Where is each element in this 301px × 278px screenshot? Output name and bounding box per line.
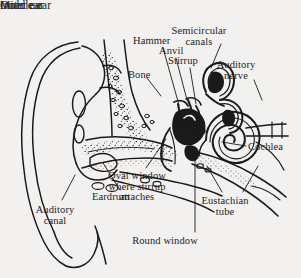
leader-auditory-canal	[62, 175, 75, 200]
leader-auditory-nerve	[254, 80, 262, 100]
label-auditory-canal: Auditorycanal	[36, 205, 75, 226]
ear-anatomy-diagram: Outer ear Middle ear Inner ear Semicircu…	[0, 0, 301, 278]
label-round-window: Round window	[132, 236, 198, 247]
label-eardrum: Eardrum	[92, 192, 129, 203]
label-inner-ear: Inner ear	[0, 0, 42, 12]
label-auditory-nerve: Auditorynerve	[217, 60, 256, 81]
leader-cochlea	[222, 142, 246, 146]
label-stirrup: Stirrup	[168, 56, 198, 67]
leader-stirrup	[190, 68, 196, 104]
label-bone: Bone	[128, 70, 151, 81]
leader-oval-window	[146, 139, 166, 168]
leader-eustachian-b	[243, 166, 258, 192]
label-cochlea: Cochlea	[248, 142, 283, 153]
label-eustachian-tube: Eustachiantube	[201, 196, 248, 217]
leader-eustachian-a	[207, 166, 222, 192]
